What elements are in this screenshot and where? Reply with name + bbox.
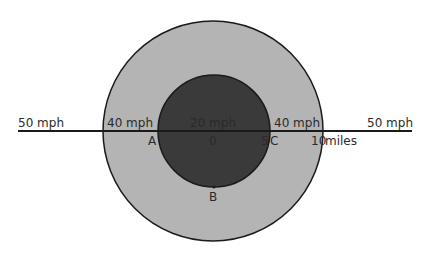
speed-zone-diagram: 50 mph 40 mph 20 mph 40 mph 50 mph A 0 5…	[0, 0, 432, 257]
inner-speed-label: 20 mph	[190, 116, 236, 130]
point-a-label: A	[148, 134, 157, 148]
point-b-marker	[213, 186, 216, 189]
outer-right-speed-label: 40 mph	[274, 116, 320, 130]
inner-radius-label: 5	[261, 134, 269, 148]
point-c-label: C	[270, 134, 278, 148]
distance-unit-label: miles	[325, 134, 357, 148]
outer-radius-label: 10	[311, 134, 326, 148]
outside-left-speed-label: 50 mph	[18, 116, 64, 130]
outer-left-speed-label: 40 mph	[107, 116, 153, 130]
outside-right-speed-label: 50 mph	[367, 116, 413, 130]
point-b-label: B	[209, 190, 217, 204]
origin-label: 0	[209, 134, 217, 148]
